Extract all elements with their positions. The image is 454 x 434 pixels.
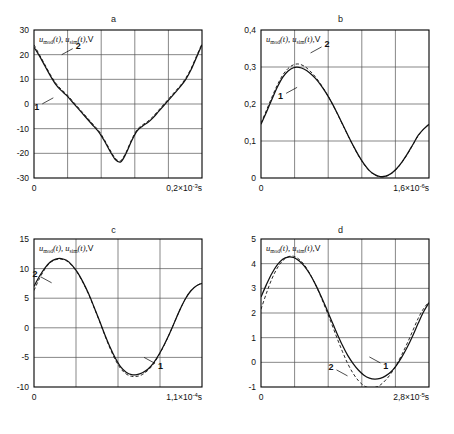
- panel-c-svg: 151050-5-1001,1×10-4sumod(t), usim(t),V1…: [0, 217, 227, 434]
- panel-c-plot: 151050-5-1001,1×10-4sumod(t), usim(t),V1…: [0, 217, 227, 434]
- gridlines: [261, 30, 429, 178]
- panel-b-svg: 0,40,30,20,1001,6×10-6sumod(t), usim(t),…: [227, 0, 454, 217]
- xtick-label-end: 0,2×10-3s: [166, 183, 202, 193]
- ytick-label: 4: [251, 259, 256, 269]
- curve-1: [261, 67, 429, 176]
- ytick-label: 0,2: [244, 99, 256, 109]
- ytick-label: 3: [251, 283, 256, 293]
- curve-2: [261, 256, 429, 388]
- curve-1: [34, 45, 202, 162]
- ytick-label: 5: [24, 293, 29, 303]
- ytick-label: 0,4: [244, 25, 256, 35]
- panel-b: b 0,40,30,20,1001,6×10-6sumod(t), usim(t…: [227, 0, 454, 217]
- panel-a-svg: 3020100-10-20-3000,2×10-3sumod(t), usim(…: [0, 0, 227, 217]
- curve-1: [261, 257, 429, 379]
- ytick-label: 1: [251, 333, 256, 343]
- xtick-label-origin: 0: [32, 183, 37, 193]
- xtick-label-end: 1,1×10-4s: [166, 392, 202, 402]
- ytick-label: -10: [17, 382, 30, 392]
- xtick-label-end: 2,8×10-5s: [393, 392, 429, 402]
- curve-label-1: 1: [383, 361, 388, 371]
- axis-quantity-label: umod(t), usim(t),V: [39, 34, 94, 45]
- curve-2: [34, 44, 202, 161]
- ytick-label: 0: [251, 357, 256, 367]
- curve-label-2: 2: [329, 362, 334, 372]
- callout-leader-1: [286, 87, 297, 93]
- ytick-label: -30: [17, 173, 30, 183]
- callout-leader-2: [337, 370, 348, 376]
- ytick-label: 20: [20, 50, 30, 60]
- ytick-label: 0: [251, 173, 256, 183]
- svg-text:1,6×10-6s: 1,6×10-6s: [393, 183, 429, 193]
- curve-label-1: 1: [34, 102, 39, 112]
- curve-label-1: 1: [158, 361, 163, 371]
- xtick-label-origin: 0: [259, 183, 264, 193]
- axis-quantity-label: umod(t), usim(t),V: [266, 243, 321, 254]
- xtick-label-origin: 0: [32, 392, 37, 402]
- gridlines: [34, 30, 202, 178]
- ytick-label: -10: [17, 124, 30, 134]
- ytick-label: 0: [24, 99, 29, 109]
- ytick-label: 2: [251, 308, 256, 318]
- figure-four-panel-voltage-waveforms: a 3020100-10-20-3000,2×10-3sumod(t), usi…: [0, 0, 454, 434]
- callout-leader-2: [62, 49, 73, 55]
- panel-d: d 543210-102,8×10-5sumod(t), usim(t),V12: [227, 217, 454, 434]
- panel-a-plot: 3020100-10-20-3000,2×10-3sumod(t), usim(…: [0, 0, 227, 217]
- svg-text:1,1×10-4s: 1,1×10-4s: [166, 392, 202, 402]
- ytick-label: 0,3: [244, 62, 256, 72]
- panel-d-plot: 543210-102,8×10-5sumod(t), usim(t),V12: [227, 217, 454, 434]
- svg-text:0,2×10-3s: 0,2×10-3s: [166, 183, 202, 193]
- panel-a: a 3020100-10-20-3000,2×10-3sumod(t), usi…: [0, 0, 227, 217]
- xtick-label-end: 1,6×10-6s: [393, 183, 429, 193]
- svg-text:2,8×10-5s: 2,8×10-5s: [393, 392, 429, 402]
- callout-leader-1: [144, 357, 155, 363]
- ytick-label: 10: [20, 264, 30, 274]
- curve-label-2: 2: [33, 269, 38, 279]
- callout-leader-2: [41, 277, 52, 283]
- gridlines: [34, 239, 202, 387]
- ytick-label: 0,1: [244, 136, 256, 146]
- ytick-label: 0: [24, 323, 29, 333]
- panel-c: c 151050-5-1001,1×10-4sumod(t), usim(t),…: [0, 217, 227, 434]
- curve-label-2: 2: [76, 41, 81, 51]
- ytick-label: 15: [20, 234, 30, 244]
- ytick-label: 30: [20, 25, 30, 35]
- axis-quantity-label: umod(t), usim(t),V: [266, 34, 321, 45]
- ytick-label: 10: [20, 74, 30, 84]
- curve-label-2: 2: [325, 39, 330, 49]
- axis-quantity-label: umod(t), usim(t),V: [39, 243, 94, 254]
- xtick-label-origin: 0: [259, 392, 264, 402]
- ytick-label: -20: [17, 148, 30, 158]
- ytick-label: -1: [248, 382, 256, 392]
- panel-d-svg: 543210-102,8×10-5sumod(t), usim(t),V12: [227, 217, 454, 434]
- ytick-label: 5: [251, 234, 256, 244]
- gridlines: [261, 239, 429, 387]
- curve-label-1: 1: [278, 91, 283, 101]
- callout-leader-2: [311, 47, 322, 53]
- ytick-label: -5: [21, 352, 29, 362]
- callout-leader-1: [42, 98, 53, 104]
- panel-b-plot: 0,40,30,20,1001,6×10-6sumod(t), usim(t),…: [227, 0, 454, 217]
